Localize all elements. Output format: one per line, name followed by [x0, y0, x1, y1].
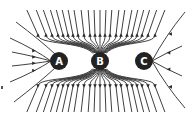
- charge-c: C: [135, 52, 153, 70]
- charge-c-label: C: [140, 56, 147, 67]
- charge-a: A: [50, 52, 68, 70]
- stray-mark: [1, 86, 3, 89]
- charge-b: B: [91, 52, 109, 70]
- field-line-diagram: A B C: [0, 0, 196, 122]
- charge-a-label: A: [55, 56, 63, 67]
- charge-b-label: B: [96, 56, 104, 67]
